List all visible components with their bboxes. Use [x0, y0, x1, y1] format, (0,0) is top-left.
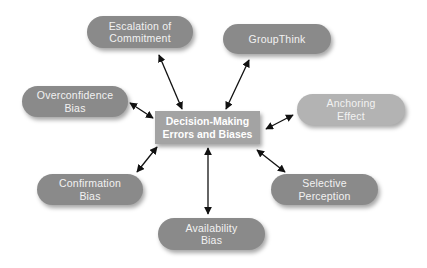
- node-confirmation-bias: Confirmation Bias: [37, 174, 143, 205]
- arrow-selective: [257, 150, 285, 172]
- arrow-escalation: [159, 55, 182, 109]
- node-anchoring-effect: Anchoring Effect: [297, 94, 405, 125]
- node-groupthink: GroupThink: [223, 24, 331, 54]
- node-selective-perception: Selective Perception: [271, 174, 378, 205]
- center-node-decision-making-errors: Decision-Making Errors and Biases: [155, 111, 260, 144]
- node-availability-bias: Availability Bias: [158, 218, 265, 250]
- arrow-overconfidence: [130, 103, 153, 118]
- arrow-confirmation: [137, 147, 157, 172]
- node-escalation-of-commitment: Escalation of Commitment: [87, 16, 193, 48]
- arrow-anchoring: [266, 115, 293, 129]
- arrow-groupthink: [226, 60, 249, 109]
- node-overconfidence-bias: Overconfidence Bias: [22, 86, 128, 117]
